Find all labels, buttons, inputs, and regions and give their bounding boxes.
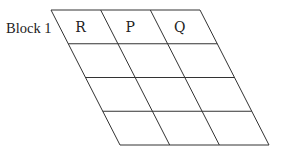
cell-labels: RPQ <box>75 19 185 35</box>
cell-label-p: P <box>125 19 134 35</box>
cell-label-q: Q <box>174 19 185 35</box>
block-label: Block 1 <box>6 20 52 36</box>
block-grid-diagram: Block 1 RPQ <box>0 0 281 150</box>
cell-label-r: R <box>75 19 86 35</box>
